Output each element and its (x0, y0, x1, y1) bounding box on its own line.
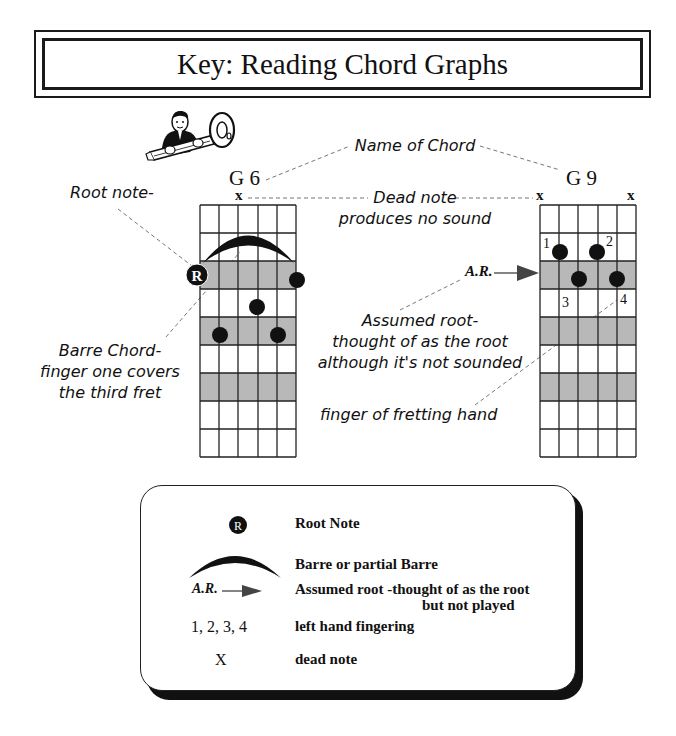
assumed-root-line1: Assumed root- (305, 310, 535, 331)
barre-line1: Barre Chord- (25, 340, 195, 361)
barre-chord-label: Barre Chord- finger one covers the third… (25, 340, 195, 403)
root-note-label: Root note- (70, 182, 154, 203)
finger-number: 4 (620, 292, 627, 308)
legend-barre: Barre or partial Barre (295, 556, 438, 573)
barre-arc-icon (203, 236, 294, 264)
barre-line2: finger one covers (25, 361, 195, 382)
assumed-root-ar-label: A.R. (465, 263, 493, 280)
finger-dot (270, 327, 286, 343)
svg-text:R: R (234, 519, 242, 533)
chord-name-g9: G 9 (566, 166, 597, 191)
chord-name-g6: G 6 (229, 166, 260, 191)
legend-root-note: Root Note (295, 515, 360, 532)
assumed-root-line3: although it's not sounded (305, 352, 535, 373)
chord-diagram-g6: R (180, 200, 310, 462)
legend-dead-note-symbol: X (215, 651, 227, 669)
finger-dot (249, 299, 265, 315)
finger-of-fretting-hand-label: finger of fretting hand (320, 404, 497, 425)
legend-fingering: left hand fingering (295, 618, 414, 635)
dead-note-label: Dead note produces no sound (330, 187, 500, 229)
assumed-root-arrow-icon (222, 581, 266, 601)
svg-text:R: R (192, 268, 203, 284)
name-of-chord-label: Name of Chord (350, 135, 480, 156)
finger-dot (571, 271, 587, 287)
finger-number: 2 (606, 234, 613, 250)
legend-dead-note: dead note (295, 651, 357, 668)
assumed-root-label: Assumed root- thought of as the root alt… (305, 310, 535, 373)
finger-dot (552, 244, 568, 260)
finger-dot (212, 327, 228, 343)
barre-arc-icon (185, 540, 285, 582)
legend-ar-symbol: A.R. (192, 581, 218, 597)
finger-dot (289, 272, 305, 288)
assumed-root-line2: thought of as the root (305, 331, 535, 352)
finger-dot (589, 244, 605, 260)
legend-assumed-root: Assumed root -thought of as the root (295, 581, 529, 598)
dead-note-line2: produces no sound (330, 208, 500, 229)
dead-note-line1: Dead note (330, 187, 500, 208)
root-note-icon: R (186, 264, 208, 286)
legend-assumed-root-line2: but not played (422, 597, 515, 614)
barre-line3: the third fret (25, 382, 195, 403)
finger-dot (609, 271, 625, 287)
root-note-icon: R (226, 513, 250, 537)
finger-number: 3 (562, 295, 569, 311)
legend-fingering-symbol: 1, 2, 3, 4 (191, 618, 247, 636)
finger-number: 1 (543, 236, 550, 252)
